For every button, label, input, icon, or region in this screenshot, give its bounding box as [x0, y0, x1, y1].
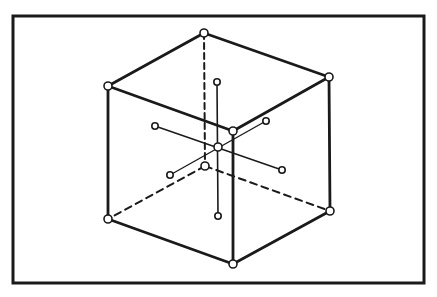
hidden-edge-left [108, 166, 205, 219]
axis-node-vertical_top [214, 79, 220, 85]
center-node [214, 143, 222, 151]
cube-edge-top_back-top_right [204, 33, 329, 77]
cube-edge-top_back-top_left [108, 33, 204, 86]
vertex-node-top_front [229, 127, 237, 135]
axis-node-diag2_b [263, 118, 269, 124]
vertex-node-bottom_left [104, 215, 112, 223]
vertex-node-top_right [325, 73, 333, 81]
cube-edge-top_right-top_front [233, 77, 329, 131]
vertex-node-bottom_front [229, 260, 237, 268]
cube-edge-top_left-top_front [108, 86, 233, 131]
axis-node-diag1_b [279, 167, 285, 173]
axis-node-diag1_a [152, 123, 158, 129]
cube-edge-bottom_right-bottom_front [233, 211, 330, 264]
hidden-edge-right [205, 166, 330, 211]
hidden-edge-vertical [204, 33, 205, 166]
cube-edge-bottom_left-bottom_front [108, 219, 233, 264]
vertex-node-top_back [200, 29, 208, 37]
vertex-node-bottom_right [326, 207, 334, 215]
axis-node-diag2_a [167, 172, 173, 178]
axis-node-vertical_bottom [215, 213, 221, 219]
cube-diagram [0, 0, 437, 297]
vertex-node-bottom_back [201, 162, 209, 170]
diagram-canvas [0, 0, 437, 297]
cube-edge-top_right-bottom_right [329, 77, 330, 211]
vertex-node-top_left [104, 82, 112, 90]
